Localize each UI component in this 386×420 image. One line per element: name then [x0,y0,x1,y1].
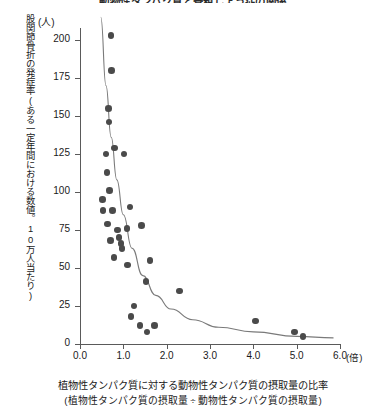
scatter-point [107,237,114,244]
y-axis-line [80,28,81,345]
scatter-point [252,318,259,325]
y-tick [75,78,80,79]
x-tick-label: 4.0 [233,350,273,361]
y-tick [75,230,80,231]
y-tick-label: 200 [38,33,70,44]
scatter-point [104,169,111,176]
x-tick-label: 5.0 [277,350,317,361]
x-tick-label: 1.0 [103,350,143,361]
scatter-point [300,333,307,340]
y-tick-label: 150 [38,109,70,120]
scatter-point [106,187,113,194]
x-tick-label: 3.0 [190,350,230,361]
scatter-point [127,204,134,211]
scatter-point [124,262,131,269]
scatter-point [99,196,106,203]
scatter-point [103,151,110,158]
scatter-point [144,329,151,336]
scatter-point [108,67,115,74]
y-tick-label: 75 [38,223,70,234]
y-tick-label: 125 [38,147,70,158]
scatter-point [121,151,128,158]
y-tick-label: 100 [38,185,70,196]
scatter-point [106,119,113,126]
scatter-point [151,322,158,329]
scatter-point [143,278,150,285]
y-tick [75,306,80,307]
x-tick [340,344,341,349]
x-axis-caption-line1: 植物性タンパク質に対する動物性タンパク質の摂取量の比率 [0,378,386,393]
x-axis-caption-line2: (植物性タンパク質の摂取量 ÷ 動物性タンパク質の摂取量) [0,393,386,408]
x-tick [253,344,254,349]
x-tick-label: 0.0 [60,350,100,361]
scatter-point [114,227,121,234]
x-tick [80,344,81,349]
x-tick [167,344,168,349]
scatter-point [137,322,144,329]
x-tick-label: 2.0 [147,350,187,361]
scatter-point [111,145,118,152]
scatter-point [128,313,135,320]
y-tick-label: 25 [38,299,70,310]
x-tick [123,344,124,349]
y-tick [75,268,80,269]
x-tick [210,344,211,349]
chart-figure: 動物性タンパク質と骨粗しょう症の関係 股関節骨折の発症率(ある一定年間における数… [0,0,386,420]
scatter-point [147,257,154,264]
y-tick [75,116,80,117]
y-axis-unit: (人) [38,14,55,29]
scatter-point [100,207,107,214]
scatter-point [105,105,112,112]
x-axis-caption: 植物性タンパク質に対する動物性タンパク質の摂取量の比率 (植物性タンパク質の摂取… [0,378,386,408]
x-axis-unit: (倍) [346,350,362,364]
scatter-point [108,32,115,39]
scatter-point [119,245,126,252]
scatter-point [111,254,118,261]
y-tick [75,40,80,41]
y-tick-label: 0 [38,337,70,348]
chart-title: 動物性タンパク質と骨粗しょう症の関係 [0,0,386,3]
y-tick [75,154,80,155]
scatter-point [124,225,131,232]
scatter-point [131,303,138,310]
y-tick-label: 175 [38,71,70,82]
scatter-point [176,288,183,295]
y-tick-label: 50 [38,261,70,272]
scatter-point [291,329,298,336]
y-axis-label: 股関節骨折の発症率(ある一定年間における数値。10万人当たり) [19,14,35,314]
scatter-point [104,221,111,228]
x-tick [297,344,298,349]
scatter-point [109,207,116,214]
scatter-point [138,222,145,229]
y-tick [75,192,80,193]
